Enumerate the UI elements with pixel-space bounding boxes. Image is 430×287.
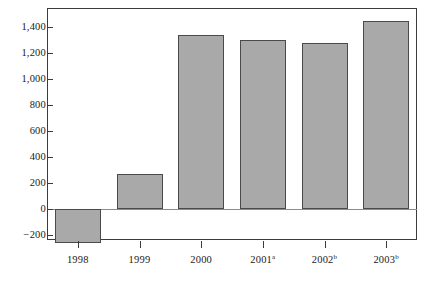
y-axis-tick-label: 1,000 (2, 74, 46, 85)
bar-chart: −20002004006008001,0001,2001,400 1998199… (0, 0, 430, 287)
x-axis-label-footnote-marker: a (272, 253, 275, 261)
y-axis-tick-label: 0 (2, 204, 46, 215)
y-axis-tick-mark (47, 183, 53, 184)
y-axis-tick-mark (47, 105, 53, 106)
x-axis-tick-mark (201, 241, 202, 248)
x-axis-tick-mark (325, 241, 326, 248)
bar-2002 (302, 43, 348, 209)
y-axis-tick-label: 200 (2, 178, 46, 189)
y-axis-tick-label: 1,200 (2, 48, 46, 59)
bar-2000 (178, 35, 224, 209)
x-axis-tick-mark (386, 241, 387, 248)
y-axis-labels: −20002004006008001,0001,2001,400 (0, 0, 46, 287)
y-axis-tick-mark (47, 53, 53, 54)
y-axis-tick-label: 1,400 (2, 22, 46, 33)
zero-baseline (47, 209, 417, 210)
x-axis-tick-label: 2003b (346, 254, 426, 266)
y-axis-tick-label: 800 (2, 100, 46, 111)
x-axis-label-footnote-marker: b (334, 253, 338, 261)
y-axis-tick-mark (47, 235, 53, 236)
bar-1998 (55, 209, 101, 243)
x-axis-tick-mark (263, 241, 264, 248)
x-axis-label-footnote-marker: b (395, 253, 399, 261)
bar-1999 (117, 174, 163, 209)
bar-2003 (363, 21, 409, 210)
y-axis-tick-mark (47, 79, 53, 80)
plot-area-frame (47, 8, 417, 240)
y-axis-tick-mark (47, 27, 53, 28)
y-axis-tick-label: 400 (2, 152, 46, 163)
x-axis-tick-mark (140, 241, 141, 248)
y-axis-tick-mark (47, 209, 53, 210)
bar-2001 (240, 40, 286, 209)
y-axis-tick-mark (47, 131, 53, 132)
y-axis-tick-mark (47, 157, 53, 158)
y-axis-tick-label: −200 (2, 230, 46, 241)
y-axis-tick-label: 600 (2, 126, 46, 137)
x-axis-tick-mark (78, 241, 79, 248)
